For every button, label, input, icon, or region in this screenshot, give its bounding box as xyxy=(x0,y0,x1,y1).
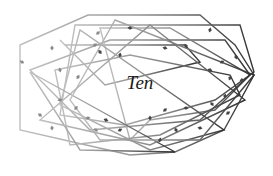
leaf-mark-icon xyxy=(50,45,54,50)
center-label: Ten xyxy=(110,72,170,94)
leaf-mark-icon xyxy=(197,126,203,131)
leaf-mark-icon xyxy=(208,27,213,33)
leaf-mark-icon xyxy=(75,74,81,80)
polygon-outline xyxy=(55,55,240,145)
leaf-mark-icon xyxy=(183,106,188,110)
leaf-mark-icon xyxy=(162,46,168,51)
leaf-mark-icon xyxy=(50,125,54,131)
leaf-mark-icon xyxy=(162,107,168,113)
leaf-mark-icon xyxy=(225,110,231,116)
leaf-mark-icon xyxy=(37,112,43,118)
